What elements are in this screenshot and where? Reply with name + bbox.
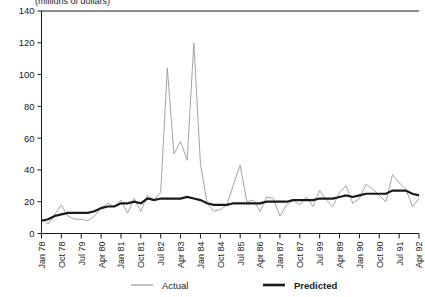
y-tick-label: 140	[19, 5, 35, 16]
legend-label-actual: Actual	[162, 280, 188, 291]
x-tick-label: Apr 92	[414, 242, 424, 269]
x-tick-label: Jan 84	[196, 242, 206, 269]
x-axis-group: Jan 78Oct 78Jul 79Apr 80Jan 81Oct 81Jul …	[37, 234, 425, 269]
x-tick-label: Jan 81	[116, 242, 126, 269]
y-tick-label: 20	[24, 196, 35, 207]
legend-label-predicted: Predicted	[294, 280, 337, 291]
x-tick-label: Apr 80	[97, 242, 107, 269]
x-tick-label: Apr 83	[176, 242, 186, 269]
y-tick-labels: 020406080100120140	[19, 5, 35, 239]
x-tick-label: Jan 90	[355, 242, 365, 269]
y-tick-label: 80	[24, 101, 35, 112]
x-tick-label: Jan 78	[37, 242, 47, 269]
series-line-actual	[42, 43, 420, 224]
data-series-layer	[42, 43, 420, 224]
x-tick-label: Apr 89	[335, 242, 345, 269]
chart-legend: ActualPredicted	[131, 280, 337, 291]
y-axis-group: 020406080100120140	[19, 5, 42, 239]
x-tick-label: Oct 84	[216, 242, 226, 269]
y-tick-label: 60	[24, 133, 35, 144]
x-tick-label: Oct 78	[57, 242, 67, 269]
x-tick-label: Jul 91	[395, 242, 405, 266]
y-tick-label: 100	[19, 69, 35, 80]
x-tick-label: Jul 82	[156, 242, 166, 266]
y-tick-label: 120	[19, 37, 35, 48]
y-tick-marks	[38, 11, 42, 234]
x-tick-label: Jan 87	[275, 242, 285, 269]
x-tick-marks	[42, 234, 420, 239]
x-tick-label: Jul 85	[236, 242, 246, 266]
x-tick-label: Oct 90	[375, 242, 385, 269]
chart-container: (millions of dollars) 020406080100120140…	[0, 0, 425, 297]
y-tick-label: 0	[29, 228, 34, 239]
x-tick-label: Apr 86	[255, 242, 265, 269]
x-tick-label: Oct 87	[295, 242, 305, 269]
y-tick-label: 40	[24, 164, 35, 175]
x-tick-label: Jul 79	[77, 242, 87, 266]
x-tick-label: Jul 99	[315, 242, 325, 266]
line-chart: 020406080100120140 Jan 78Oct 78Jul 79Apr…	[0, 0, 425, 297]
x-tick-labels: Jan 78Oct 78Jul 79Apr 80Jan 81Oct 81Jul …	[37, 242, 425, 269]
x-tick-label: Oct 81	[136, 242, 146, 269]
